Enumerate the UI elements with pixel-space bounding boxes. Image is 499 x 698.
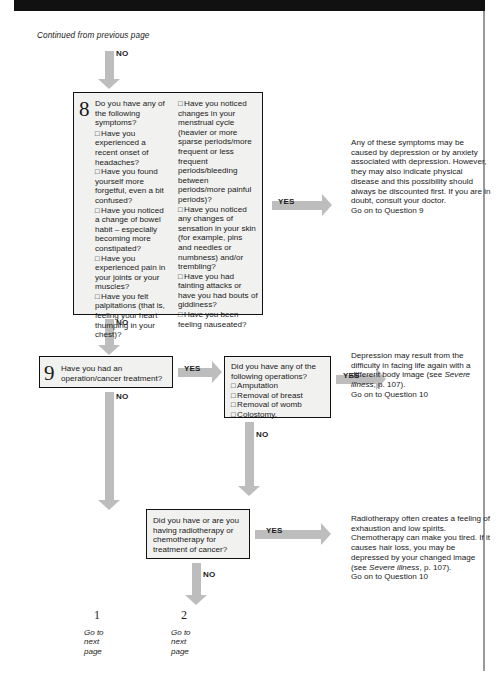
radiotherapy-box: Did you have or are you having radiother… <box>146 509 250 559</box>
question-8-checkbox-item[interactable]: Have you noticed changes in your menstru… <box>178 99 258 205</box>
answer-operations-yes-body: Depression may result from the difficult… <box>351 351 491 390</box>
question-8-checkbox-item[interactable]: Have you experienced a recent onset of h… <box>95 129 170 167</box>
footer-left-marker: 1 <box>94 608 100 623</box>
question-8-checkbox-item[interactable]: Have you noticed a change of bowel habit… <box>95 206 170 254</box>
answer-q8-yes-next: Go on to Question 9 <box>351 206 491 216</box>
answer-operations-yes-next: Go on to Question 10 <box>351 390 491 400</box>
arrow-label-yes-radiotherapy: YES <box>266 526 283 535</box>
radiotherapy-text: Did you have or are you having radiother… <box>153 516 244 554</box>
question-9-number: 9 <box>44 363 55 383</box>
arrow-label-yes-q8: YES <box>278 197 295 206</box>
question-8-box: 8 Do you have any of the following sympt… <box>73 92 263 315</box>
answer-radiotherapy-yes: Radiotherapy often creates a feeling of … <box>351 514 491 582</box>
question-9-text: Have you had an operation/cancer treatme… <box>61 364 169 383</box>
answer-radiotherapy-after-ref: , p. 107). <box>419 563 451 572</box>
arrow-label-no-q9: NO <box>116 392 128 401</box>
question-8-checkbox-item[interactable]: Have you experienced pain in your joints… <box>95 254 170 292</box>
question-8-checkbox-item[interactable]: Have you noticed any changes of sensatio… <box>178 205 258 272</box>
arrow-label-no-radiotherapy: NO <box>203 570 215 579</box>
answer-q8-yes: Any of these symptoms may be caused by d… <box>351 138 491 216</box>
question-8-right-column: Have you noticed changes in your menstru… <box>178 99 258 329</box>
operations-checkbox-item[interactable]: Removal of breast <box>231 391 325 401</box>
answer-operations-after-ref: , p. 107). <box>374 380 406 389</box>
answer-q8-yes-body: Any of these symptoms may be caused by d… <box>351 138 491 206</box>
question-8-number: 8 <box>79 99 90 119</box>
footer-right-line-1: Go to <box>171 628 191 637</box>
footer-left-goto: Go to next page <box>84 628 104 656</box>
question-8-checkbox-item[interactable]: Have you felt palpitations (that is, fee… <box>95 292 170 340</box>
arrow-label-no-into-q8: NO <box>116 49 128 58</box>
arrow-down-q9-no <box>98 392 121 510</box>
footer-left-line-3: page <box>84 647 104 656</box>
question-8-checkbox-item[interactable]: Have you been feeling nauseated? <box>178 310 258 329</box>
operations-content: Did you have any of the following operat… <box>225 357 330 420</box>
question-9-box: 9 Have you had an operation/cancer treat… <box>39 356 173 388</box>
operations-box: Did you have any of the following operat… <box>224 356 331 418</box>
operations-checkbox-item[interactable]: Amputation <box>231 381 325 391</box>
radiotherapy-content: Did you have or are you having radiother… <box>147 510 249 554</box>
answer-radiotherapy-ref: Severe illness <box>369 563 419 572</box>
footer-right-marker: 2 <box>181 608 187 623</box>
operations-lead: Did you have any of the following operat… <box>231 362 325 381</box>
top-banner <box>14 0 485 11</box>
footer-left-line-2: next <box>84 637 104 646</box>
question-8-checkbox-item[interactable]: Have you found yourself more forgetful, … <box>95 167 170 205</box>
continued-from-previous-page-note: Continued from previous page <box>37 31 150 40</box>
arrow-label-no-operations: NO <box>256 430 268 439</box>
footer-right-line-3: page <box>171 647 191 656</box>
footer-right-line-2: next <box>171 637 191 646</box>
arrow-label-yes-q9: YES <box>184 364 201 373</box>
answer-radiotherapy-yes-body: Radiotherapy often creates a feeling of … <box>351 514 491 572</box>
question-8-checkbox-item[interactable]: Have you had fainting attacks or have yo… <box>178 272 258 310</box>
operations-checkbox-item[interactable]: Colostomy. <box>231 410 325 420</box>
question-8-left-column: Do you have any of the following symptom… <box>95 99 170 340</box>
answer-operations-yes: Depression may result from the difficult… <box>351 351 491 400</box>
footer-right-goto: Go to next page <box>171 628 191 656</box>
question-8-lead: Do you have any of the following symptom… <box>95 99 170 128</box>
operations-checkbox-item[interactable]: Removal of womb <box>231 400 325 410</box>
answer-radiotherapy-yes-next: Go on to Question 10 <box>351 572 491 582</box>
footer-left-line-1: Go to <box>84 628 104 637</box>
flowchart-page: Continued from previous page NO 8 Do you… <box>0 0 499 698</box>
